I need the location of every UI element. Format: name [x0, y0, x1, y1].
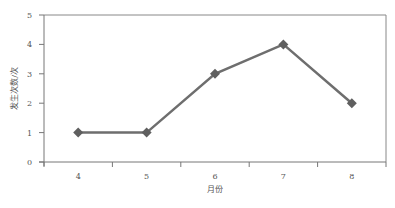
y-tick-label: 1 [27, 129, 32, 138]
diamond-marker [73, 128, 83, 138]
data-line [78, 44, 352, 132]
x-axis-label: 月份 [207, 184, 223, 194]
line-chart: 01234545678月份发生次数/次 [0, 0, 395, 208]
x-tick-label: 5 [144, 172, 149, 181]
x-tick-label: 4 [76, 172, 81, 181]
y-tick-label: 5 [27, 11, 32, 20]
y-axis-label: 发生次数/次 [9, 67, 19, 110]
y-tick-label: 4 [27, 40, 32, 49]
y-tick-label: 3 [27, 70, 32, 79]
x-tick-label: 8 [349, 172, 354, 181]
x-tick-label: 6 [212, 172, 217, 181]
x-tick-label: 7 [281, 172, 286, 181]
y-tick-label: 2 [27, 99, 32, 108]
y-tick-label: 0 [27, 158, 32, 167]
